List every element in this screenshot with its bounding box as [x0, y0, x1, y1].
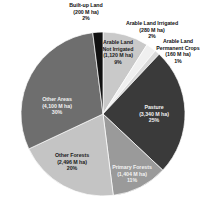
slice-percent-line: 11% — [101, 177, 163, 184]
slice-value-line: (4,100 M ha) — [25, 103, 89, 110]
slice-label-line: Built-up Land — [48, 2, 124, 9]
slice-percent-line: 1% — [147, 58, 209, 65]
slice-label-line: Arable Land — [90, 39, 146, 46]
slice-value-line: (1,404 M ha) — [101, 171, 163, 178]
slice-value-line: (200 M ha) — [48, 9, 124, 16]
slice-value-line: (3,340 M ha) — [123, 111, 185, 118]
slice-label-line: Other Areas — [25, 96, 89, 103]
slice-value-line: (160 M ha) — [147, 51, 209, 58]
slice-label-line-2: Not Irrigated — [90, 46, 146, 53]
slice-label-primary-forests: Primary Forests (1,404 M ha) 11% — [101, 164, 163, 184]
slice-percent-line: 20% — [40, 165, 104, 172]
slice-label-arable-land-permanent-crops: Arable Land Permanent Crops (160 M ha) 1… — [147, 38, 209, 64]
slice-label-arable-land-not-irrigated: Arable Land Not Irrigated (1,120 M ha) 9… — [90, 39, 146, 65]
slice-percent-line: 9% — [90, 59, 146, 66]
pie-chart-figure: Built-up Land (200 M ha) 2% Arable Land … — [0, 0, 210, 215]
slice-percent-line: 25% — [123, 117, 185, 124]
slice-label-line: Arable Land Irrigated — [112, 20, 192, 27]
slice-label-line: Pasture — [123, 104, 185, 111]
slice-value-line: (2,496 M ha) — [40, 159, 104, 166]
slice-label-line: Arable Land — [147, 38, 209, 45]
slice-label-line: Primary Forests — [101, 164, 163, 171]
slice-value-line: (1,120 M ha) — [90, 52, 146, 59]
slice-label-built-up-land: Built-up Land (200 M ha) 2% — [48, 2, 124, 22]
slice-label-line: Other Forests — [40, 152, 104, 159]
slice-label-other-areas: Other Areas (4,100 M ha) 30% — [25, 96, 89, 116]
slice-value-line: (280 M ha) — [112, 27, 192, 34]
slice-label-line-2: Permanent Crops — [147, 45, 209, 52]
slice-label-other-forests: Other Forests (2,496 M ha) 20% — [40, 152, 104, 172]
slice-label-pasture: Pasture (3,340 M ha) 25% — [123, 104, 185, 124]
slice-label-arable-land-irrigated: Arable Land Irrigated (280 M ha) 2% — [112, 20, 192, 40]
slice-percent-line: 30% — [25, 109, 89, 116]
